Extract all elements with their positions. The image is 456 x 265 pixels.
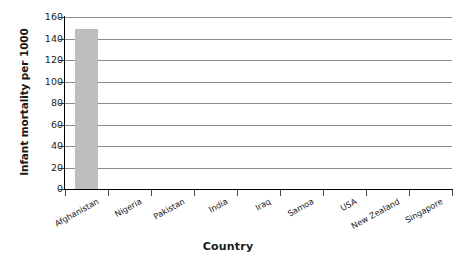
x-axis-ticks: AfghanistanNigeriaPakistanIndiaIraqSamoa… xyxy=(0,0,456,265)
x-tick-mark xyxy=(366,190,367,196)
x-tick-mark xyxy=(237,190,238,196)
x-tick-mark xyxy=(194,190,195,196)
x-tick-mark xyxy=(409,190,410,196)
x-tick-mark xyxy=(280,190,281,196)
bar-chart: Infant mortality per 1000 02040608010012… xyxy=(0,0,456,265)
x-axis-title: Country xyxy=(0,240,456,253)
x-tick-mark xyxy=(108,190,109,196)
x-tick-mark xyxy=(323,190,324,196)
x-tick-mark xyxy=(65,190,66,196)
x-tick-mark xyxy=(452,190,453,196)
x-tick-mark xyxy=(151,190,152,196)
